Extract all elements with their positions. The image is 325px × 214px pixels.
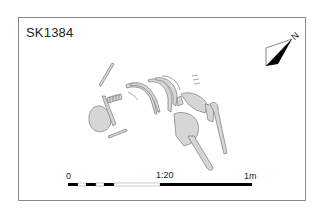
skeleton-drawing: N [0, 0, 325, 214]
scale-end-label: 1m [244, 171, 257, 181]
bones-group [89, 63, 227, 170]
north-arrow-icon: N [266, 30, 301, 66]
scale-ratio-label: 1:20 [156, 170, 174, 180]
scale-bar [68, 183, 252, 186]
scale-start-label: 0 [66, 171, 71, 181]
